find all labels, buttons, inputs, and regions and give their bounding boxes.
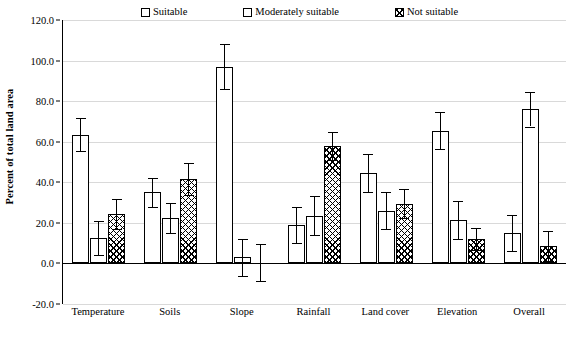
error-bar-cap [94,255,104,256]
error-bar-cap [292,243,302,244]
bar-group [279,20,351,304]
error-bar [368,154,369,193]
plot-area [62,20,566,304]
error-bar-cap [471,250,481,251]
y-axis-title-text: Percent of total land area [5,88,16,204]
bar[interactable] [522,109,539,263]
bar-group [494,20,566,304]
error-bar-cap [112,199,122,200]
error-bar [80,118,81,150]
x-axis-label: Land cover [349,306,421,317]
error-bar-cap [166,233,176,234]
error-bar-cap [76,118,86,119]
legend-item-not-suitable: Not suitable [395,7,458,18]
x-axis-label: Overall [493,306,565,317]
error-bar-cap [184,195,194,196]
error-bar [242,239,243,276]
bar-group-bars [279,20,351,304]
error-bar-cap [453,239,463,240]
error-bar-cap [328,160,338,161]
error-bar-cap [381,192,391,193]
y-tick-label: 60.0 [36,136,54,147]
bar-slot [306,20,323,304]
bar-group-bars [207,20,279,304]
bar-slot [108,20,125,304]
gridline [63,304,566,305]
error-bar [116,199,117,229]
error-bar-cap [525,127,535,128]
y-tick-label: 20.0 [36,217,54,228]
bar-slot [468,20,485,304]
error-bar-cap [166,203,176,204]
plot-wrapper: 120.0100.080.060.040.020.00.0-20.0 Tempe… [18,20,567,320]
y-tick-mark [56,263,60,264]
x-axis-label: Slope [206,306,278,317]
bar-slot [540,20,557,304]
x-axis-label: Elevation [421,306,493,317]
bar[interactable] [324,146,341,264]
x-axis-labels: TemperatureSoilsSlopeRainfallLand coverE… [62,306,565,317]
bar-slot [180,20,197,304]
x-axis-label: Soils [134,306,206,317]
bar-group [135,20,207,304]
error-bar-cap [507,215,517,216]
error-bar [404,189,405,217]
legend-swatch-crosshatch-icon [395,8,404,17]
y-tick-mark [56,182,60,183]
bar-slot [396,20,413,304]
bar[interactable] [72,135,89,264]
legend-label-not-suitable: Not suitable [407,7,458,18]
error-bar-cap [148,207,158,208]
bar-group-bars [135,20,207,304]
error-bar [440,112,441,149]
bar-group-bars [63,20,135,304]
bar-slot [324,20,341,304]
bar-group-bars [422,20,494,304]
bar-slot [144,20,161,304]
bar[interactable] [216,67,233,264]
chart-legend: Suitable Moderately suitable Not suitabl… [0,2,569,22]
legend-swatch-plain-icon [243,8,252,17]
legend-label-moderately-suitable: Moderately suitable [255,7,339,18]
bar-slot [432,20,449,304]
y-axis-title: Percent of total land area [2,0,18,292]
y-tick-label: 100.0 [30,55,54,66]
bar-slot [360,20,377,304]
y-tick-label: -20.0 [32,299,54,310]
bar-slot [288,20,305,304]
bar-chart: Suitable Moderately suitable Not suitabl… [0,0,569,339]
y-tick-label: 0.0 [41,258,54,269]
y-tick-label: 120.0 [30,15,54,26]
bar-group [207,20,279,304]
legend-item-moderately-suitable: Moderately suitable [243,7,339,18]
error-bar [332,132,333,160]
error-bar-cap [220,44,230,45]
error-bar [224,44,225,89]
error-bar-cap [435,112,445,113]
error-bar-cap [453,201,463,202]
error-bar-cap [507,251,517,252]
error-bar-cap [256,281,266,282]
bar[interactable] [432,131,449,264]
error-bar [170,203,171,233]
bar-group [350,20,422,304]
error-bar [296,207,297,244]
y-axis-ticks: 120.0100.080.060.040.020.00.0-20.0 [18,20,60,304]
error-bar [548,231,549,261]
error-bar-cap [381,229,391,230]
error-bar-cap [399,218,409,219]
error-bar-cap [220,89,230,90]
bar-group-bars [350,20,422,304]
error-bar-cap [238,239,248,240]
y-tick-mark [56,304,60,305]
bar-slot [162,20,179,304]
bar-slot [450,20,467,304]
error-bar-cap [435,149,445,150]
error-bar-cap [256,244,266,245]
error-bar [98,221,99,255]
error-bar-cap [184,163,194,164]
error-bar-cap [471,228,481,229]
error-bar-cap [292,207,302,208]
x-axis-label: Temperature [62,306,134,317]
x-axis-label: Rainfall [278,306,350,317]
